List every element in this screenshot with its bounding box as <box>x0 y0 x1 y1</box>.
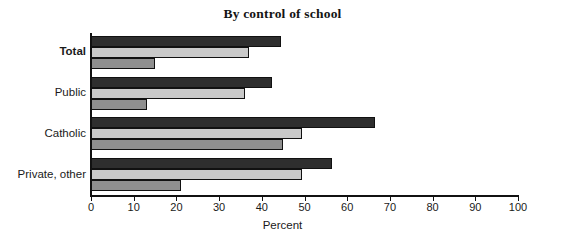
bar-series-3-total <box>91 58 155 69</box>
x-tick-label: 20 <box>156 201 196 213</box>
bar-series-3-catholic <box>91 139 283 150</box>
x-tick-label: 10 <box>114 201 154 213</box>
category-label-catholic: Catholic <box>0 127 86 139</box>
category-label-private-other: Private, other <box>0 168 86 180</box>
bar-series-1-total <box>91 36 281 47</box>
chart-title: By control of school <box>0 6 565 22</box>
x-tick-label: 50 <box>285 201 325 213</box>
bar-series-2-catholic <box>91 128 302 139</box>
bar-series-2-private-other <box>91 169 302 180</box>
x-tick-label: 40 <box>242 201 282 213</box>
x-tick-label: 0 <box>71 201 111 213</box>
bar-chart: By control of school 0102030405060708090… <box>0 0 565 243</box>
x-tick-label: 30 <box>199 201 239 213</box>
x-tick-label: 60 <box>327 201 367 213</box>
x-tick-label: 100 <box>498 201 538 213</box>
x-tick-label: 70 <box>370 201 410 213</box>
x-axis-title: Percent <box>0 219 565 231</box>
bar-series-1-public <box>91 77 272 88</box>
category-label-public: Public <box>0 86 86 98</box>
bar-series-1-private-other <box>91 158 332 169</box>
x-tick-label: 90 <box>455 201 495 213</box>
category-label-total: Total <box>0 45 86 57</box>
bar-series-2-total <box>91 47 249 58</box>
bar-series-3-public <box>91 99 147 110</box>
bar-series-1-catholic <box>91 117 375 128</box>
x-tick-label: 80 <box>413 201 453 213</box>
bar-series-3-private-other <box>91 180 181 191</box>
bar-series-2-public <box>91 88 245 99</box>
